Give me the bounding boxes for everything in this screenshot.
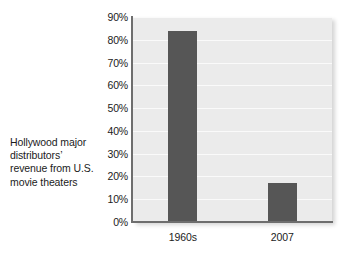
- bar: [268, 183, 297, 222]
- gridline: [133, 131, 332, 132]
- gridline: [133, 154, 332, 155]
- gridline: [133, 40, 332, 41]
- x-axis-tick-label: 2007: [271, 231, 294, 243]
- plot-area: [133, 17, 332, 222]
- gridline: [133, 85, 332, 86]
- plot-inner: [133, 17, 332, 222]
- y-axis-tick-label: 70%: [82, 57, 128, 69]
- x-axis-line: [131, 221, 333, 223]
- y-axis-tick-label: 30%: [82, 148, 128, 160]
- x-axis-tick-label: 1960s: [169, 231, 197, 243]
- y-axis-ticks: 0%10%20%30%40%50%60%70%80%90%: [80, 0, 128, 257]
- y-axis-tick-label: 10%: [82, 193, 128, 205]
- y-axis-tick-label: 20%: [82, 170, 128, 182]
- gridline: [133, 108, 332, 109]
- gridline: [133, 63, 332, 64]
- y-axis-tick-label: 0%: [82, 216, 128, 228]
- gridline: [133, 199, 332, 200]
- y-axis-tick-label: 60%: [82, 79, 128, 91]
- gridline: [133, 176, 332, 177]
- y-axis-tick-label: 50%: [82, 102, 128, 114]
- gridline: [133, 17, 332, 18]
- y-axis-tick-label: 90%: [82, 11, 128, 23]
- y-axis-tick-label: 40%: [82, 125, 128, 137]
- y-axis-tick-label: 80%: [82, 34, 128, 46]
- y-axis-line: [131, 16, 133, 223]
- figure: Hollywood major distributors’ revenue fr…: [0, 0, 355, 257]
- bar: [168, 31, 197, 222]
